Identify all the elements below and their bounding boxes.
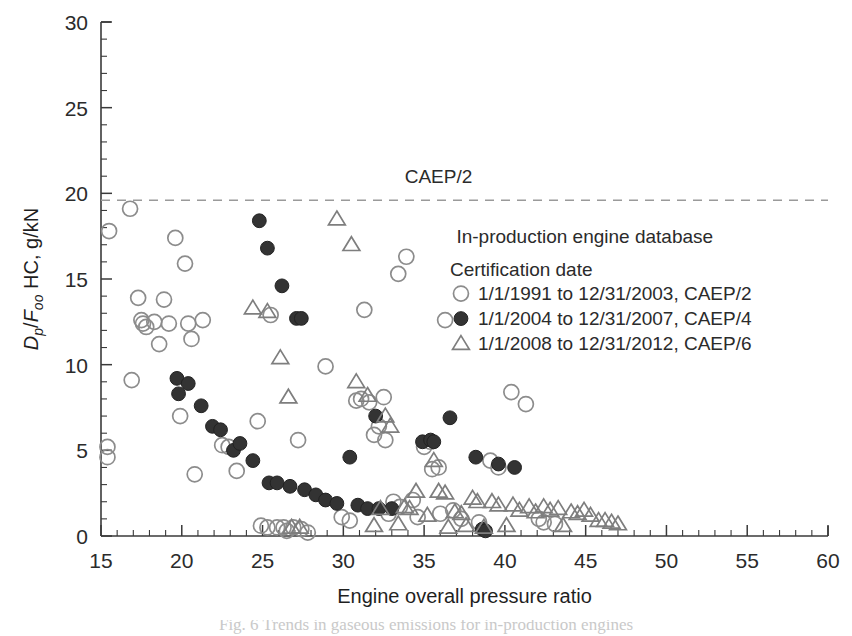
data-point (348, 374, 365, 388)
data-point (469, 450, 483, 464)
data-point (124, 373, 139, 388)
scatter-plot: 05101520253015202530354045505560Engine o… (0, 0, 852, 636)
data-point (100, 450, 115, 465)
x-tick-label: 30 (332, 549, 355, 572)
y-tick-label: 15 (65, 268, 88, 291)
data-point (173, 409, 188, 424)
x-tick-label: 50 (655, 549, 678, 572)
data-point (328, 211, 345, 225)
legend-title: Certification date (450, 259, 593, 280)
data-point (294, 312, 308, 326)
data-point (187, 467, 202, 482)
data-point (270, 476, 284, 490)
legend-entry-2[interactable]: 1/1/2004 to 12/31/2007, CAEP/4 (454, 308, 752, 329)
data-point (518, 397, 533, 412)
legend-label: 1/1/1991 to 12/31/2003, CAEP/2 (478, 283, 752, 304)
data-point (157, 292, 172, 307)
data-point (291, 433, 306, 448)
data-points-layer (100, 201, 626, 540)
data-point (547, 517, 562, 532)
y-tick-label: 5 (76, 439, 88, 462)
data-point (484, 494, 501, 508)
y-tick-label: 20 (65, 182, 88, 205)
data-point (181, 377, 195, 391)
data-point (229, 463, 244, 478)
legend-marker-open-triangle (453, 336, 470, 350)
x-tick-label: 60 (816, 549, 839, 572)
data-point (357, 302, 372, 317)
data-point (390, 516, 407, 530)
data-point (123, 201, 138, 216)
y-tick-label: 25 (65, 97, 88, 120)
database-title: In-production engine database (456, 226, 713, 247)
data-point (152, 337, 167, 352)
data-point (259, 304, 276, 318)
data-point (181, 316, 196, 331)
x-tick-label: 25 (251, 549, 274, 572)
data-point (272, 350, 289, 364)
legend-marker-filled-circle (454, 312, 468, 326)
data-point (408, 483, 425, 497)
data-point (469, 494, 486, 508)
data-point (376, 390, 391, 405)
data-point (443, 411, 457, 425)
data-point (195, 313, 210, 328)
legend-layer: Certification date1/1/1991 to 12/31/2003… (450, 259, 752, 354)
data-point (168, 230, 183, 245)
data-point (498, 518, 515, 532)
legend-entry-3[interactable]: 1/1/2008 to 12/31/2012, CAEP/6 (453, 333, 752, 354)
data-point (508, 461, 522, 475)
data-point (280, 389, 297, 403)
data-point (343, 450, 357, 464)
data-point (283, 479, 297, 493)
data-point (330, 497, 344, 511)
legend-entry-1[interactable]: 1/1/1991 to 12/31/2003, CAEP/2 (453, 283, 751, 304)
data-point (131, 290, 146, 305)
data-point (252, 214, 266, 228)
y-tick-label: 10 (65, 354, 88, 377)
y-tick-label: 30 (65, 11, 88, 34)
y-axis-title: Dp/Foo HC, g/kN (20, 208, 46, 350)
data-point (246, 454, 260, 468)
y-tick-label: 0 (76, 525, 88, 548)
data-point (233, 437, 247, 451)
legend-marker-open-circle (453, 286, 468, 301)
data-point (535, 499, 552, 513)
data-point (366, 518, 383, 532)
x-tick-label: 55 (736, 549, 759, 572)
data-point (184, 331, 199, 346)
x-tick-label: 45 (574, 549, 597, 572)
data-point (178, 256, 193, 271)
x-axis-title: Engine overall pressure ratio (337, 585, 592, 607)
data-point (318, 359, 333, 374)
x-tick-label: 40 (493, 549, 516, 572)
x-tick-label: 20 (170, 549, 193, 572)
data-point (343, 237, 360, 251)
data-point (102, 224, 117, 239)
data-point (399, 249, 414, 264)
caep2-reference-label: CAEP/2 (405, 166, 473, 187)
series-group-1 (100, 201, 563, 540)
data-point (504, 385, 519, 400)
data-point (244, 300, 261, 314)
legend-label: 1/1/2008 to 12/31/2012, CAEP/6 (478, 333, 752, 354)
legend-label: 1/1/2004 to 12/31/2007, CAEP/4 (478, 308, 752, 329)
data-point (261, 241, 275, 255)
data-point (275, 279, 289, 293)
x-tick-label: 35 (412, 549, 435, 572)
figure-caption-sliver: Fig. 6 Trends in gaseous emissions for i… (0, 620, 852, 636)
data-point (161, 316, 176, 331)
x-tick-label: 15 (89, 549, 112, 572)
data-point (438, 313, 453, 328)
figure-container: 05101520253015202530354045505560Engine o… (0, 0, 852, 636)
data-point (391, 266, 406, 281)
data-point (492, 457, 506, 471)
data-point (194, 399, 208, 413)
data-point (214, 423, 228, 437)
data-point (427, 435, 441, 449)
data-point (250, 414, 265, 429)
